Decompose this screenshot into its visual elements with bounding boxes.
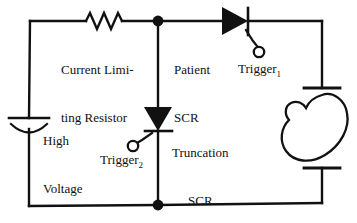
trigger-1-label-text: Trigger xyxy=(238,61,277,76)
truncation-scr-label-line-2: SCR xyxy=(172,193,229,209)
patient-heart xyxy=(282,94,348,161)
truncation-scr-gate-lead xyxy=(137,133,152,143)
trigger-2-label-subscript: 2 xyxy=(139,160,144,170)
truncation-scr-anode-triangle xyxy=(144,107,172,131)
patient-scr-label-line-1: Patient xyxy=(174,62,210,78)
truncation-scr-label-line-1: Truncation xyxy=(172,145,229,161)
bottom-junction-node xyxy=(153,200,164,211)
label-truncation-scr: Truncation SCR xyxy=(172,113,229,223)
capacitor-label-line-2: Voltage xyxy=(43,181,94,197)
capacitor-label-line-1: High xyxy=(43,133,94,149)
patient-scr-gate-lead xyxy=(246,30,257,46)
trigger-1-label-subscript: 1 xyxy=(277,69,282,79)
current-limiting-resistor xyxy=(86,13,122,29)
resistor-label-line-1: Current Limi- xyxy=(61,62,134,78)
trigger-2-label-text: Trigger xyxy=(100,152,139,167)
label-trigger-1: Trigger1 xyxy=(238,61,281,77)
patient-scr-anode-triangle xyxy=(222,7,248,35)
label-high-voltage-capacitor: High Voltage Capacitor xyxy=(43,101,94,223)
wire-left-rail-upper xyxy=(29,21,30,118)
top-junction-node xyxy=(153,16,164,27)
label-trigger-2: Trigger2 xyxy=(100,152,143,168)
trigger-1-terminal[interactable] xyxy=(254,47,264,57)
circuit-diagram: Current Limi- ting Resistor High Voltage… xyxy=(0,0,357,223)
